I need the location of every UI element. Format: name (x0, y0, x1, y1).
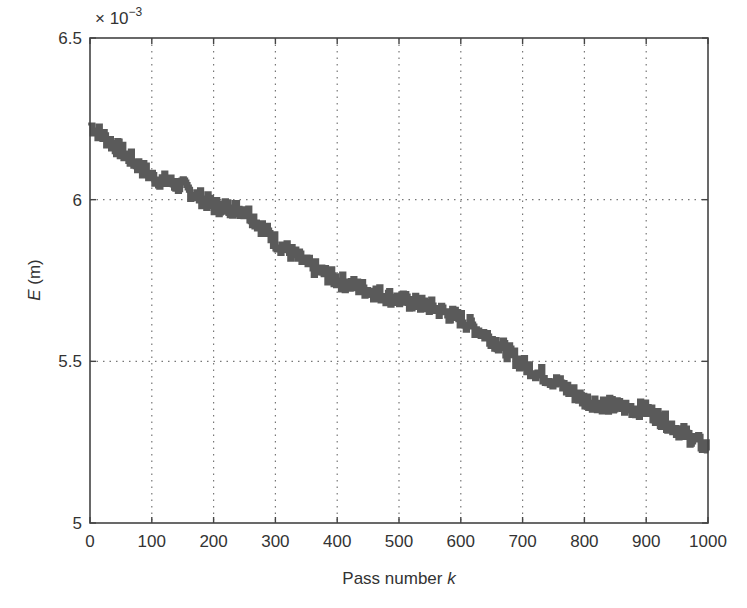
x-tick-label: 1000 (689, 532, 727, 551)
data-series (90, 125, 708, 450)
x-tick-label: 500 (385, 532, 413, 551)
y-tick-label: 6.5 (58, 29, 82, 48)
x-tick-label: 800 (570, 532, 598, 551)
x-tick-label: 300 (261, 532, 289, 551)
x-tick-label: 400 (323, 532, 351, 551)
y-tick-labels: 55.566.5 (58, 29, 82, 533)
x-tick-label: 900 (632, 532, 660, 551)
y-axis-label: E (m) (25, 259, 44, 301)
x-axis-label: Pass number k (342, 569, 457, 588)
y-multiplier: × 10−3 (95, 5, 143, 28)
y-tick-label: 5 (73, 514, 82, 533)
x-tick-labels: 01002003004005006007008009001000 (85, 532, 727, 551)
y-tick-label: 5.5 (58, 352, 82, 371)
chart: 01002003004005006007008009001000 55.566.… (0, 0, 747, 608)
grid-lines (90, 38, 708, 523)
x-tick-label: 600 (447, 532, 475, 551)
x-tick-label: 100 (138, 532, 166, 551)
x-tick-label: 200 (199, 532, 227, 551)
series-line (90, 125, 708, 450)
y-tick-label: 6 (73, 191, 82, 210)
x-tick-label: 0 (85, 532, 94, 551)
x-tick-label: 700 (508, 532, 536, 551)
